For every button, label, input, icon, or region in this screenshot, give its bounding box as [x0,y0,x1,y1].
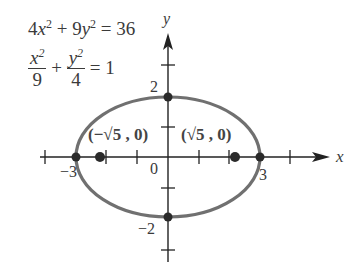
standard-equation: x2 9 + y2 4 = 1 [28,48,115,91]
plus-sign: + [57,18,68,39]
x-fraction: x2 9 [28,48,46,91]
x-pos-3-label: 3 [259,166,267,184]
coef-b: 9 [72,18,82,39]
x-neg-3-label: −3 [60,163,77,181]
y-axis-label: y [163,10,170,28]
origin-label: 0 [150,160,158,178]
equals-1: = 1 [90,57,115,78]
var-y: y [82,18,90,39]
left-focus-label: (−√5 , 0) [88,125,148,145]
exp-y: 2 [90,17,96,31]
y-fraction: y2 4 [67,48,85,91]
coef-a: 4 [28,18,38,39]
y-pos-2-label: 2 [150,78,158,96]
general-equation: 4x2 + 9y2 = 36 [28,18,135,40]
x-denominator: 9 [28,69,46,91]
y-exp: 2 [77,46,83,60]
exp-x: 2 [46,17,52,31]
plus-sign-2: + [51,57,62,78]
right-focus-label: (√5 , 0) [181,125,231,145]
y-neg-2-label: −2 [138,220,155,238]
var-x: x [38,18,46,39]
x-axis-label: x [336,147,344,167]
x-exp: 2 [38,46,44,60]
equals-36: = 36 [101,18,135,39]
y-denominator: 4 [67,69,85,91]
y-numerator: y [69,47,77,68]
